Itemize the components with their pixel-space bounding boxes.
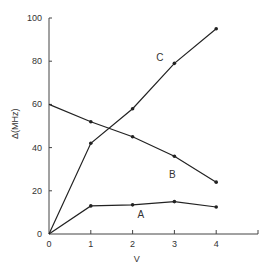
series-a xyxy=(49,200,218,234)
y-tick-label: 60 xyxy=(32,99,42,109)
series-line xyxy=(49,104,216,182)
series-c xyxy=(49,27,218,234)
x-tick-label: 3 xyxy=(172,239,177,249)
x-axis-title: V xyxy=(134,254,140,264)
curve-label-a: A xyxy=(138,209,145,220)
y-tick-label: 80 xyxy=(32,56,42,66)
axes: 02040608010001234VΔ(MHz) xyxy=(10,13,258,264)
data-point xyxy=(173,154,177,158)
y-axis-title: Δ(MHz) xyxy=(10,109,20,140)
data-point xyxy=(131,107,135,111)
curve-labels: ABC xyxy=(138,52,176,220)
data-point xyxy=(173,62,177,66)
data-point xyxy=(214,205,218,209)
x-tick-label: 4 xyxy=(214,239,219,249)
data-point xyxy=(131,203,135,207)
data-point xyxy=(89,204,93,208)
y-tick-label: 0 xyxy=(37,229,42,239)
x-tick-label: 2 xyxy=(130,239,135,249)
y-tick-label: 100 xyxy=(27,13,42,23)
curve-label-b: B xyxy=(169,169,176,180)
data-point xyxy=(89,120,93,124)
data-point xyxy=(89,141,93,145)
series-b xyxy=(49,104,218,184)
x-tick-label: 0 xyxy=(46,239,51,249)
line-chart: 02040608010001234VΔ(MHz) ABC xyxy=(0,0,272,272)
series-group xyxy=(49,27,218,234)
data-point xyxy=(214,180,218,184)
y-tick-label: 20 xyxy=(32,186,42,196)
curve-label-c: C xyxy=(156,52,163,63)
y-tick-label: 40 xyxy=(32,143,42,153)
data-point xyxy=(173,200,177,204)
data-point xyxy=(214,27,218,31)
x-tick-label: 1 xyxy=(88,239,93,249)
data-point xyxy=(131,135,135,139)
